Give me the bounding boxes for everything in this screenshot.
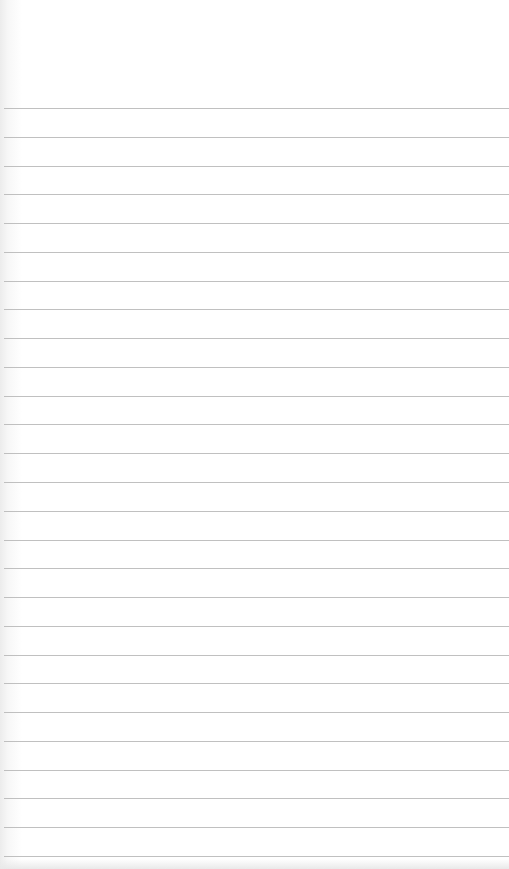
ruled-line [4, 281, 509, 282]
ruled-line [4, 223, 509, 224]
ruled-line [4, 827, 509, 828]
ruled-line [4, 856, 509, 857]
ruled-line [4, 568, 509, 569]
ruled-line [4, 683, 509, 684]
ruled-line [4, 798, 509, 799]
ruled-line [4, 453, 509, 454]
ruled-line [4, 424, 509, 425]
ruled-line [4, 396, 509, 397]
ruled-line [4, 338, 509, 339]
lined-paper [0, 0, 509, 869]
ruled-line [4, 309, 509, 310]
ruled-line [4, 194, 509, 195]
ruled-line [4, 626, 509, 627]
ruled-line [4, 166, 509, 167]
bottom-edge-shadow [0, 859, 509, 869]
ruled-line [4, 482, 509, 483]
ruled-line [4, 108, 509, 109]
ruled-line [4, 741, 509, 742]
ruled-line [4, 137, 509, 138]
ruled-line [4, 597, 509, 598]
ruled-line [4, 252, 509, 253]
ruled-line [4, 770, 509, 771]
ruled-line [4, 367, 509, 368]
ruled-line [4, 655, 509, 656]
ruled-line [4, 540, 509, 541]
ruled-line [4, 712, 509, 713]
ruled-line [4, 511, 509, 512]
